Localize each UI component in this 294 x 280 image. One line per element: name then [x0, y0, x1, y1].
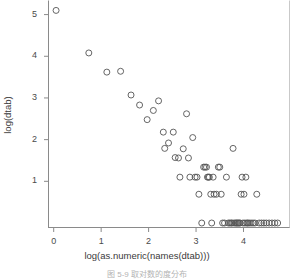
- y-tick-label: 2: [23, 135, 37, 144]
- x-axis-title: log(as.numeric(names(dtab))): [0, 251, 294, 261]
- plot-frame: [48, 0, 290, 228]
- y-tick-label: 3: [23, 93, 37, 102]
- x-tick-label: 2: [142, 237, 156, 246]
- x-tick-label: 3: [189, 237, 203, 246]
- figure-container: 12345 01234 log(dtab) log(as.numeric(nam…: [0, 0, 294, 280]
- x-tick-label: 4: [236, 237, 250, 246]
- x-tick-label: 0: [47, 237, 61, 246]
- y-tick-label: 4: [23, 51, 37, 60]
- y-tick-label: 1: [23, 176, 37, 185]
- y-axis-title: log(dtab): [3, 83, 13, 147]
- x-tick-label: 1: [94, 237, 108, 246]
- y-tick-label: 5: [23, 10, 37, 19]
- figure-caption: 图 5-9 取对数的度分布: [0, 270, 294, 280]
